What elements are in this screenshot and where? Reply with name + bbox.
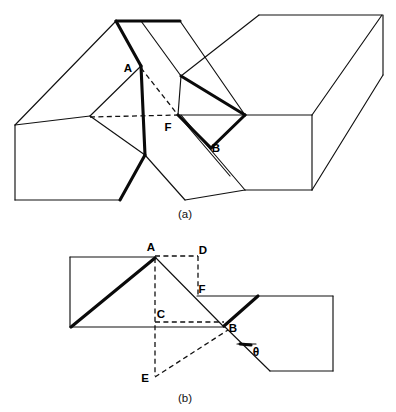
panel-b-left-block-A-slope [155,257,224,327]
left-block-front-bottom-fold [185,190,245,200]
panel-a-group: A F B (a) [15,15,383,220]
label-D-panel-b: D [199,244,207,256]
label-F-panel-a: F [164,121,171,133]
caption-panel-a: (a) [178,208,192,220]
angle-marker-wedge [240,344,251,345]
label-B-panel-b: B [229,322,237,334]
caption-panel-b: (b) [178,392,192,404]
panel-b-dashed-E-to-B [155,330,228,377]
fracture-trace-B-lower [178,115,211,148]
label-E-panel-b: E [141,372,149,384]
panel-b-right-block-face [224,296,333,371]
right-block-front-face [245,115,312,190]
label-F-panel-b: F [198,283,205,295]
technical-diagram: A F B (a) [0,0,396,412]
label-A-panel-b: A [147,241,155,253]
panel-b-group: A D F C B E θ (b) [70,241,333,404]
label-theta-panel-b: θ [253,345,260,359]
label-A-panel-a: A [124,62,132,74]
figure-container: A F B (a) [0,0,396,412]
left-block-front-lower-fold [145,155,185,200]
label-C-panel-b: C [157,308,165,320]
label-B-panel-a: B [212,142,220,154]
